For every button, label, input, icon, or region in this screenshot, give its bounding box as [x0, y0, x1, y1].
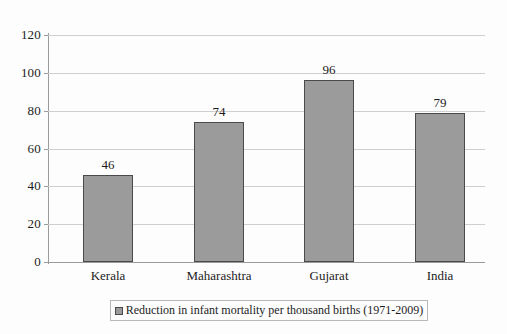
bar-value-india: 79	[434, 95, 447, 111]
y-tick-20	[44, 224, 48, 225]
bar-gujarat[interactable]: 96	[304, 80, 354, 262]
y-tick-0	[44, 262, 48, 263]
y-tick-60	[44, 149, 48, 150]
legend-label: Reduction in infant mortality per thousa…	[126, 303, 424, 318]
legend-swatch-icon	[115, 307, 123, 315]
gridline-100: 100	[48, 73, 485, 74]
y-axis-label-20: 20	[28, 216, 41, 232]
x-axis-label-gujarat: Gujarat	[310, 268, 349, 284]
y-axis-label-100: 100	[21, 65, 41, 81]
bar-value-gujarat: 96	[323, 62, 336, 78]
chart-legend[interactable]: Reduction in infant mortality per thousa…	[110, 300, 428, 321]
x-axis-label-india: India	[427, 268, 454, 284]
y-axis-label-80: 80	[28, 103, 41, 119]
y-axis-label-40: 40	[28, 178, 41, 194]
gridline-0-baseline: 0	[48, 262, 485, 263]
bar-india[interactable]: 79	[415, 113, 465, 262]
gridline-80: 80	[48, 111, 485, 112]
y-axis-label-60: 60	[28, 141, 41, 157]
y-tick-120	[44, 35, 48, 36]
gridline-120: 120	[48, 35, 485, 36]
x-axis-label-kerala: Kerala	[91, 268, 126, 284]
bar-chart: 120 100 80 60 40 20 0 46	[0, 0, 507, 334]
bar-kerala[interactable]: 46	[83, 175, 133, 262]
y-axis-label-0: 0	[34, 254, 41, 270]
x-axis-label-maharashtra: Maharashtra	[187, 268, 252, 284]
y-tick-80	[44, 111, 48, 112]
y-axis-label-120: 120	[21, 27, 41, 43]
y-tick-100	[44, 73, 48, 74]
bar-value-kerala: 46	[102, 157, 115, 173]
bar-value-maharashtra: 74	[213, 104, 226, 120]
bar-maharashtra[interactable]: 74	[194, 122, 244, 262]
y-tick-40	[44, 186, 48, 187]
plot-area: 120 100 80 60 40 20 0 46	[48, 35, 485, 262]
